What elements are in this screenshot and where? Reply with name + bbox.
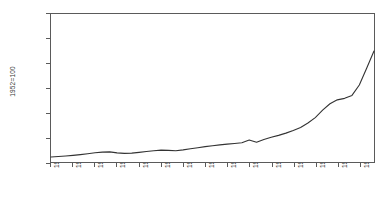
x-tick-mark bbox=[139, 163, 140, 167]
plot-area bbox=[50, 13, 375, 163]
x-tick-mark bbox=[72, 163, 73, 167]
x-tick-mark bbox=[183, 163, 184, 167]
x-tick-mark bbox=[316, 163, 317, 167]
x-tick-mark bbox=[50, 163, 51, 167]
x-tick-mark bbox=[294, 163, 295, 167]
x-tick-mark bbox=[249, 163, 250, 167]
x-tick-mark bbox=[272, 163, 273, 167]
x-tick-mark bbox=[360, 163, 361, 167]
line-series-svg bbox=[51, 14, 374, 162]
x-tick-mark bbox=[161, 163, 162, 167]
x-tick-mark bbox=[205, 163, 206, 167]
x-tick-mark bbox=[338, 163, 339, 167]
x-tick-mark bbox=[116, 163, 117, 167]
x-tick-mark bbox=[227, 163, 228, 167]
line-series-path bbox=[51, 51, 374, 157]
x-tick-mark bbox=[94, 163, 95, 167]
chart-figure: 1952=100 050010001500200025003000 195219… bbox=[0, 0, 386, 201]
